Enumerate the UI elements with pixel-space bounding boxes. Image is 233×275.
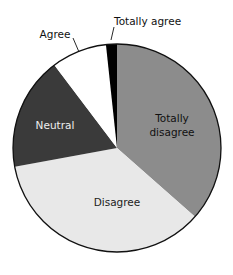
label-disagree: Disagree [94,196,141,208]
label-totally-disagree-1: Totally [154,112,189,124]
pie-chart: Totally disagree Disagree Neutral Agree … [0,0,233,275]
label-totally-agree: Totally agree [113,15,181,27]
totally-agree-leader-line [111,27,114,40]
label-totally-disagree-2: disagree [149,126,194,138]
label-neutral: Neutral [36,119,75,131]
label-agree: Agree [40,28,71,40]
agree-leader-line [73,38,79,52]
